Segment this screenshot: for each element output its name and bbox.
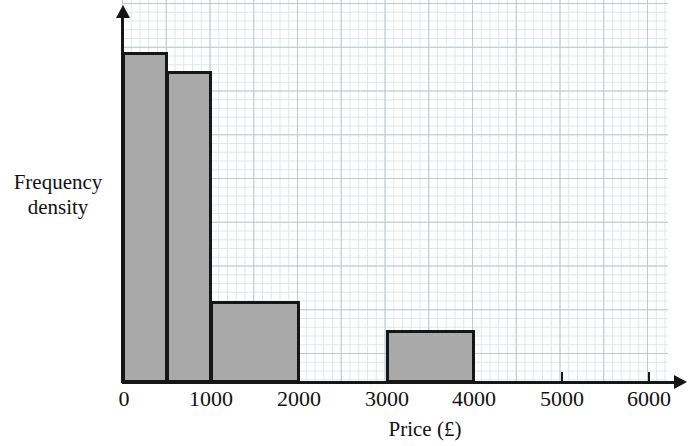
x-axis-title: Price (£)	[340, 416, 510, 442]
x-tick-label-4000: 4000	[429, 386, 519, 412]
x-tick-label-2000: 2000	[254, 386, 344, 412]
y-axis-title-line2: density	[2, 195, 114, 220]
y-axis-title-line1: Frequency	[14, 170, 103, 194]
histogram-bar-1000-2000	[210, 301, 300, 383]
histogram-bar-0-500	[122, 52, 168, 383]
y-axis-line	[121, 16, 124, 383]
x-tick-6000	[648, 372, 650, 382]
x-tick-0	[122, 372, 124, 382]
x-tick-5000	[561, 372, 563, 382]
x-axis-line	[122, 381, 678, 384]
x-tick-label-3000: 3000	[342, 386, 432, 412]
y-axis-title: Frequency density	[2, 170, 114, 220]
x-tick-label-1000: 1000	[166, 386, 256, 412]
x-tick-1000	[210, 372, 212, 382]
histogram-figure: 0 1000 2000 3000 4000 5000 6000 Price (£…	[0, 0, 688, 446]
x-tick-4000	[473, 372, 475, 382]
x-tick-label-0: 0	[79, 386, 169, 412]
x-tick-2000	[298, 372, 300, 382]
x-tick-label-5000: 5000	[517, 386, 607, 412]
x-tick-3000	[386, 372, 388, 382]
histogram-bar-500-1000	[166, 71, 212, 383]
histogram-bar-3000-4000	[386, 330, 475, 383]
y-axis-arrow-icon	[116, 5, 130, 18]
x-tick-label-6000: 6000	[604, 386, 688, 412]
